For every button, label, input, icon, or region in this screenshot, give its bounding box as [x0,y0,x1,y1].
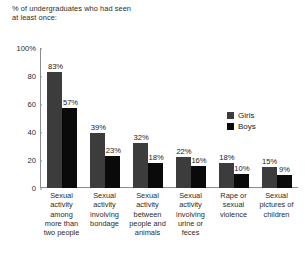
bar-slot: 23% [105,48,120,188]
bar-pair: 15%9% [255,48,298,188]
bar-boys[interactable] [62,108,77,188]
plot-area: 020406080100% 83%57%39%23%32%18%22%16%18… [40,48,298,188]
bar-slot: 83% [47,48,62,188]
chart-title: % of undergraduates who had seen at leas… [12,4,252,23]
bar-boys[interactable] [148,163,163,188]
y-axis-tick-label: 40 [28,128,40,137]
bar-chart: % of undergraduates who had seen at leas… [0,0,306,260]
legend-item-girls[interactable]: Girls [227,110,256,121]
y-axis-tick-label: 60 [28,100,40,109]
chart-legend: GirlsBoys [227,110,256,132]
bar-boys[interactable] [105,156,120,188]
x-axis-category-label: Sexual activity involving bondage [83,191,126,237]
bar-slot: 16% [191,48,206,188]
bar-boys[interactable] [234,174,249,188]
legend-swatch-icon [227,112,234,119]
bar-girls[interactable] [219,163,234,188]
y-axis-tick-mark [40,188,42,189]
y-axis-tick-label: 100% [17,44,40,53]
bar-group: 32%18% [127,48,170,188]
x-axis-category-label: Sexual activity between people and anima… [126,191,169,237]
bar-group: 22%16% [169,48,212,188]
bar-slot: 39% [90,48,105,188]
bar-girls[interactable] [176,157,191,188]
bar-value-label: 18% [219,154,234,162]
bar-group: 83%57% [41,48,84,188]
bar-value-label: 22% [176,148,191,156]
bar-value-label: 57% [63,99,78,107]
x-axis-labels: Sexual activity among more than two peop… [40,191,298,237]
bar-groups: 83%57%39%23%32%18%22%16%18%10%15%9% [41,48,298,188]
legend-swatch-icon [227,123,234,130]
y-axis-tick-label: 20 [28,156,40,165]
bar-slot: 32% [133,48,148,188]
bar-girls[interactable] [47,72,62,188]
bar-boys[interactable] [277,175,292,188]
bar-pair: 39%23% [84,48,127,188]
bar-value-label: 39% [91,124,106,132]
bar-girls[interactable] [262,167,277,188]
bar-slot: 18% [148,48,163,188]
x-axis-category-label: Sexual activity among more than two peop… [40,191,83,237]
bar-girls[interactable] [90,133,105,188]
bar-value-label: 83% [48,63,63,71]
bar-group: 15%9% [255,48,298,188]
bar-value-label: 16% [191,157,206,165]
bar-value-label: 9% [279,166,290,174]
bar-value-label: 15% [262,158,277,166]
legend-item-boys[interactable]: Boys [227,121,256,132]
bar-group: 39%23% [84,48,127,188]
bar-pair: 22%16% [169,48,212,188]
bar-slot: 22% [176,48,191,188]
bar-value-label: 10% [234,165,249,173]
bar-pair: 32%18% [127,48,170,188]
bar-value-label: 32% [134,134,149,142]
bar-slot: 57% [62,48,77,188]
bar-girls[interactable] [133,143,148,188]
y-axis-tick-label: 0 [32,184,40,193]
x-axis-category-label: Rape or sexual violence [212,191,255,237]
bar-boys[interactable] [191,166,206,188]
bar-value-label: 18% [149,154,164,162]
x-axis-category-label: Sexual pictures of children [255,191,298,237]
y-axis-tick-label: 80 [28,72,40,81]
legend-label: Girls [238,111,254,120]
bar-slot: 15% [262,48,277,188]
legend-label: Boys [238,122,256,131]
bar-pair: 83%57% [41,48,84,188]
bar-value-label: 23% [106,147,121,155]
bar-slot: 9% [277,48,292,188]
x-axis-category-label: Sexual activity involving urine or feces [169,191,212,237]
